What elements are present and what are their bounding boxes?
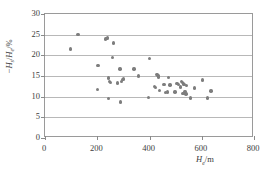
x-tick-label: 800 [247, 144, 260, 153]
x-tick-label: 400 [142, 144, 155, 153]
x-axis-title: He/m [196, 155, 214, 168]
x-tick-label: 600 [194, 144, 207, 153]
x-axis-title-text: He/m [196, 154, 214, 164]
x-tick-labels-group: 0200400600800 [0, 0, 270, 173]
x-tick-label: 0 [42, 144, 46, 153]
x-tick-label: 200 [90, 144, 103, 153]
y-axis-title: −Hs/He/% [5, 26, 18, 86]
y-axis-title-text: −Hs/He/% [4, 39, 14, 73]
scatter-chart-figure: 051015202530 0200400600800 −Hs/He/% He/m [0, 0, 270, 173]
